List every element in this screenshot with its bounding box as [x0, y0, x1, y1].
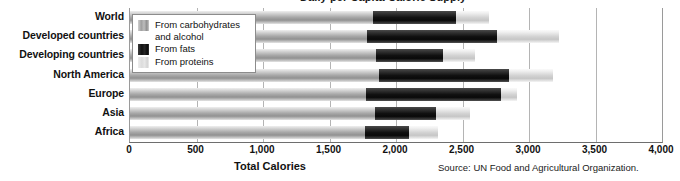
legend-item-carbohydrates: From carbohydrates and alcohol	[138, 19, 250, 42]
category-label-europe: Europe	[0, 87, 124, 99]
bar-segment-carbohydrates	[130, 107, 375, 120]
x-tick-3500: 3,500	[582, 144, 607, 155]
x-tick-2000: 2,000	[382, 144, 407, 155]
chart-title: Daily per Capita Calorie Supply	[300, 0, 466, 3]
x-tick-2500: 2,500	[449, 144, 474, 155]
x-tick-1500: 1,500	[316, 144, 341, 155]
bar-segment-proteins	[456, 11, 489, 24]
bar-europe	[130, 88, 662, 101]
carbohydrates-swatch	[138, 20, 149, 31]
source-attribution: Source: UN Food and Agricultural Organiz…	[438, 162, 639, 173]
bar-segment-carbohydrates	[130, 126, 365, 139]
x-tick-1000: 1,000	[249, 144, 274, 155]
bar-segment-fats	[367, 30, 497, 43]
legend-item-fats: From fats	[138, 43, 250, 55]
x-tick-3000: 3,000	[515, 144, 540, 155]
bar-asia	[130, 107, 662, 120]
bar-segment-proteins	[436, 107, 471, 120]
bar-segment-proteins	[509, 69, 553, 82]
bar-africa	[130, 126, 662, 139]
x-tick-500: 500	[187, 144, 204, 155]
category-label-north-america: North America	[0, 68, 124, 80]
legend-label: From proteins	[155, 56, 214, 68]
bar-segment-fats	[375, 107, 436, 120]
bar-segment-fats	[376, 49, 443, 62]
category-label-africa: Africa	[0, 125, 124, 137]
category-label-developing-countries: Developing countries	[0, 48, 124, 60]
x-tick-4000: 4,000	[648, 144, 673, 155]
bar-segment-proteins	[443, 49, 475, 62]
calorie-supply-chart: Daily per Capita Calorie Supply WorldDev…	[0, 0, 680, 181]
proteins-swatch	[138, 57, 149, 68]
chart-legend: From carbohydrates and alcoholFrom fatsF…	[132, 14, 256, 73]
legend-label: From carbohydrates and alcohol	[155, 19, 240, 42]
fats-swatch	[138, 44, 149, 55]
bar-segment-fats	[379, 69, 509, 82]
x-tick-0: 0	[126, 144, 132, 155]
category-label-world: World	[0, 10, 124, 22]
legend-label: From fats	[155, 43, 195, 55]
category-label-developed-countries: Developed countries	[0, 29, 124, 41]
category-axis-labels: WorldDeveloped countriesDeveloping count…	[0, 8, 124, 142]
x-axis-tick-labels: 05001,0001,5002,0002,5003,0003,5004,000	[129, 144, 661, 158]
bar-segment-fats	[365, 126, 409, 139]
bar-segment-carbohydrates	[130, 88, 366, 101]
bar-segment-proteins	[501, 88, 517, 101]
bar-segment-proteins	[497, 30, 559, 43]
bar-segment-fats	[366, 88, 501, 101]
legend-item-proteins: From proteins	[138, 56, 250, 68]
bar-segment-proteins	[409, 126, 438, 139]
bar-segment-fats	[373, 11, 456, 24]
category-label-asia: Asia	[0, 106, 124, 118]
